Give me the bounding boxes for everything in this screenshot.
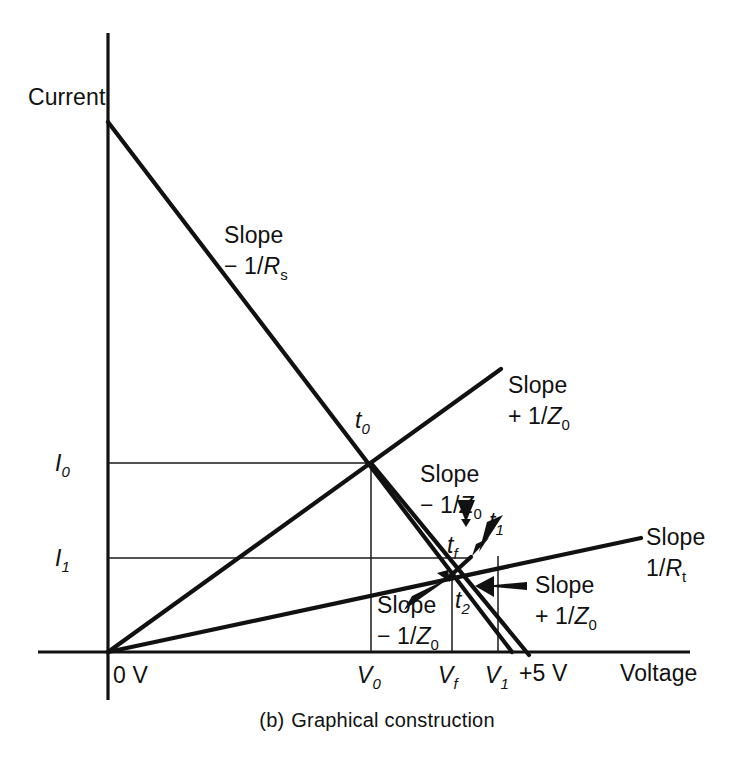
caption-label: Graphical construction [291,709,494,731]
time-label-t0: t0 [355,407,371,437]
svg-text:Slope: Slope [224,222,283,248]
x-axis-title: Voltage [620,660,697,686]
svg-text:Slope: Slope [646,524,705,550]
svg-text:Slope: Slope [377,592,436,618]
caption-index: (b) [259,709,284,731]
origin-label: 0 V [113,662,148,688]
svg-text:Slope: Slope [535,572,594,598]
figure-container: I0 I1 Current 0 V V0 Vf V1 +5 V Voltage … [0,0,754,759]
svg-text:− 1/Z0: − 1/Z0 [420,492,482,522]
slope-label-source-resistance: Slope − 1/Rs [224,222,288,283]
svg-text:− 1/Z0: − 1/Z0 [377,623,439,653]
svg-text:1/Rt: 1/Rt [646,555,687,585]
svg-text:+ 1/Z0: + 1/Z0 [508,403,570,433]
figure-caption: (b)Graphical construction [0,709,754,732]
time-label-t1: t1 [489,508,504,538]
svg-text:Slope: Slope [420,461,479,487]
graphical-construction-diagram: I0 I1 Current 0 V V0 Vf V1 +5 V Voltage … [0,0,754,759]
slope-label-line-impedance-negative-upper: Slope − 1/Z0 [420,461,482,522]
slope-label-line-impedance-negative-lower: Slope − 1/Z0 [377,592,439,653]
svg-text:+ 1/Z0: + 1/Z0 [535,603,597,633]
svg-text:− 1/Rs: − 1/Rs [224,253,288,283]
y-tick-label-I0: I0 [55,450,71,480]
slope-label-line-impedance-positive-lower: Slope + 1/Z0 [535,572,597,633]
svg-text:Slope: Slope [508,372,567,398]
x-tick-label-Vf: Vf [438,662,459,692]
x-tick-label-V1: V1 [485,662,509,692]
y-tick-label-I1: I1 [55,545,70,575]
time-label-tf: tf [447,532,460,562]
x-tick-label-V0: V0 [357,662,381,692]
supply-voltage-label: +5 V [519,660,568,686]
slope-label-termination-resistance: Slope 1/Rt [646,524,705,585]
arrow-to-positive-Z0-lower [475,576,527,597]
y-axis-title: Current [28,84,106,110]
slope-label-line-impedance-positive-upper: Slope + 1/Z0 [508,372,570,433]
